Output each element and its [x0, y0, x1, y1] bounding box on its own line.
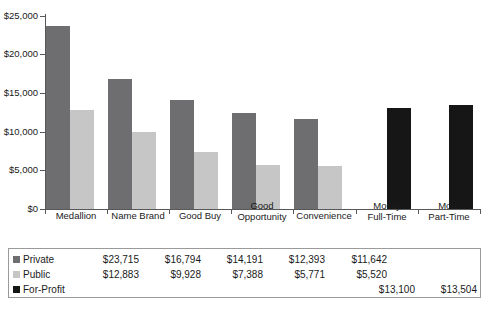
y-axis-tick-label-15000: $15,000 — [4, 88, 38, 98]
bar-private-name-brand — [108, 79, 132, 209]
table-cell-private-name-brand: $16,794 — [139, 253, 201, 266]
public-swatch — [13, 271, 20, 278]
y-axis-tick-label-0: $0 — [27, 204, 38, 214]
table-cell-public-name-brand: $9,928 — [139, 268, 201, 281]
table-cell-public-medallion: $12,883 — [77, 268, 139, 281]
table-cell-forprofit-mostly-full-time: $13,100 — [353, 283, 415, 296]
private-swatch — [13, 256, 20, 263]
bar-private-good-opportunity — [232, 113, 256, 209]
bars-layer — [45, 16, 481, 209]
table-cell-private-medallion: $23,715 — [77, 253, 139, 266]
table-row-private: Private $23,715 $16,794 $14,191 $12,393 … — [9, 252, 480, 268]
table-cell-private-convenience: $11,642 — [325, 253, 387, 266]
forprofit-swatch — [13, 286, 20, 293]
bar-private-convenience — [294, 119, 318, 209]
bar-private-good-buy — [170, 100, 194, 210]
table-cell-forprofit-more-part-time: $13,504 — [415, 283, 477, 296]
table-row-label-forprofit: For-Profit — [23, 283, 65, 296]
bar-forprofit-mostly-full-time — [387, 108, 411, 209]
bar-public-convenience — [318, 166, 342, 209]
y-axis-tick-label-10000: $10,000 — [4, 127, 38, 137]
table-cell-private-good-opportunity: $12,393 — [263, 253, 325, 266]
table-cell-public-convenience: $5,520 — [325, 268, 387, 281]
bar-public-medallion — [70, 110, 94, 209]
bar-private-medallion — [46, 26, 70, 209]
bar-public-name-brand — [132, 132, 156, 209]
table-cell-private-good-buy: $14,191 — [201, 253, 263, 266]
table-row-forprofit: For-Profit $13,100 $13,504 — [9, 282, 480, 298]
x-axis-category-labels: Medallion Name Brand Good Buy Good Oppor… — [45, 211, 481, 243]
table-cell-public-good-opportunity: $5,771 — [263, 268, 325, 281]
table-cell-public-good-buy: $7,388 — [201, 268, 263, 281]
table-row-public: Public $12,883 $9,928 $7,388 $5,771 $5,5… — [9, 267, 480, 283]
table-row-label-public: Public — [23, 268, 50, 281]
y-axis-tick-label-25000: $25,000 — [4, 11, 38, 21]
x-axis-label-more-part-time: More Part-Time — [412, 201, 486, 222]
bar-public-good-buy — [194, 152, 218, 209]
data-table: Private $23,715 $16,794 $14,191 $12,393 … — [8, 248, 481, 298]
table-row-label-private: Private — [23, 253, 54, 266]
y-axis-tick-label-20000: $20,000 — [4, 49, 38, 59]
bar-forprofit-more-part-time — [449, 105, 473, 209]
bar-chart-figure: $25,000 $20,000 $15,000 $10,000 $5,000 $… — [0, 0, 498, 323]
y-axis-tick-label-5000: $5,000 — [9, 165, 38, 175]
